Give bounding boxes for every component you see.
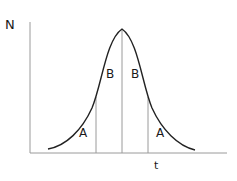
diagram-canvas [0,0,237,181]
y-axis-label: N [5,18,15,31]
region-label-b-left: B [106,68,114,80]
region-label-a-left: A [79,127,87,139]
x-axis-label: t [154,160,158,171]
region-label-a-right: A [156,127,164,139]
region-label-b-right: B [131,68,139,80]
